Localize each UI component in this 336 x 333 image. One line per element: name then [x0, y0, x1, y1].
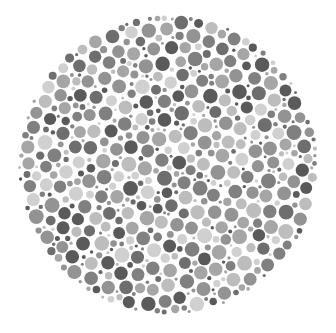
plate-dot [192, 260, 197, 265]
plate-dot [248, 226, 253, 231]
plate-dot [157, 191, 160, 194]
plate-dot [110, 143, 123, 156]
plate-dot [218, 287, 231, 300]
plate-dot [272, 127, 284, 139]
plate-dot [282, 103, 286, 107]
plate-dot [192, 100, 205, 113]
plate-dot [170, 218, 184, 232]
plate-dot [221, 277, 225, 281]
plate-dot [42, 226, 45, 229]
plate-dot [160, 22, 173, 35]
plate-dot [258, 185, 261, 188]
plate-dot [119, 242, 124, 247]
plate-dot [174, 190, 178, 194]
plate-dot [203, 50, 211, 58]
plate-dot [229, 69, 242, 82]
plate-dot [193, 178, 196, 181]
plate-dot [155, 35, 162, 42]
plate-dot [66, 250, 80, 264]
plate-dot [33, 100, 36, 103]
plate-dot [273, 248, 285, 260]
plate-dot [291, 150, 298, 157]
plate-dot [57, 221, 70, 234]
plate-dot [121, 157, 136, 172]
plate-dot [237, 217, 249, 229]
plate-dot [159, 272, 162, 275]
plate-dot [246, 287, 250, 291]
plate-dot [159, 295, 172, 308]
plate-dot [114, 267, 127, 280]
plate-dot [277, 168, 281, 172]
plate-dot [52, 106, 58, 112]
plate-dot [271, 60, 276, 65]
plate-dot [150, 128, 154, 132]
plate-dot [292, 202, 297, 207]
plate-dot [308, 173, 317, 182]
plate-dot [58, 207, 70, 219]
plate-dot [103, 207, 116, 220]
plate-dot [174, 171, 180, 177]
plate-dot [272, 170, 275, 173]
plate-dot [178, 142, 190, 154]
plate-dot [205, 22, 217, 34]
plate-dot [246, 243, 255, 252]
plate-dot [51, 130, 55, 134]
plate-dot [35, 165, 38, 168]
plate-dot [115, 248, 130, 263]
plate-dot [209, 74, 214, 79]
plate-dot [36, 227, 42, 233]
plate-dot [64, 150, 69, 155]
plate-dot [70, 73, 74, 77]
plate-dot [172, 182, 177, 187]
plate-dot [254, 55, 257, 58]
plate-dot [84, 141, 98, 155]
plate-dot [50, 171, 58, 179]
plate-dot [102, 148, 107, 153]
plate-dot [180, 274, 194, 288]
plate-dot [105, 125, 118, 138]
plate-dot [224, 208, 238, 222]
plate-dot [67, 181, 73, 187]
plate-dot [42, 81, 55, 94]
plate-dot [198, 118, 212, 132]
plate-dot [46, 216, 56, 226]
plate-dot [241, 101, 253, 113]
plate-dot [29, 209, 44, 224]
plate-dot [121, 97, 124, 100]
plate-dot [71, 87, 75, 91]
plate-dot [203, 89, 218, 104]
plate-dot [124, 140, 138, 154]
plate-dot [294, 213, 307, 226]
plate-dot [145, 177, 152, 184]
plate-dot [180, 85, 185, 90]
plate-dot [36, 151, 44, 159]
plate-dot [89, 35, 102, 48]
plate-dot [171, 305, 179, 313]
plate-dot [43, 126, 49, 132]
plate-dot [75, 53, 78, 56]
plate-dot [264, 220, 278, 234]
plate-dot [252, 160, 264, 172]
plate-dot [89, 51, 101, 63]
plate-dot [114, 108, 117, 111]
plate-dot [261, 258, 274, 271]
plate-dot [228, 229, 232, 233]
plate-dot [161, 253, 170, 262]
plate-dot [185, 85, 199, 99]
plate-dot [198, 70, 201, 73]
plate-dot [82, 255, 86, 259]
plate-dot [197, 228, 212, 243]
plate-dot [255, 104, 267, 116]
plate-dot [227, 106, 237, 116]
plate-dot [292, 120, 295, 123]
plate-dot [59, 102, 71, 114]
plate-dot [294, 91, 297, 94]
plate-dot [58, 141, 64, 147]
plate-dot [125, 197, 130, 202]
plate-dot [149, 118, 156, 125]
plate-dot [57, 115, 60, 118]
plate-dot [300, 182, 312, 194]
plate-dot [155, 276, 161, 282]
plate-dot [135, 244, 138, 247]
plate-dot [268, 111, 276, 119]
